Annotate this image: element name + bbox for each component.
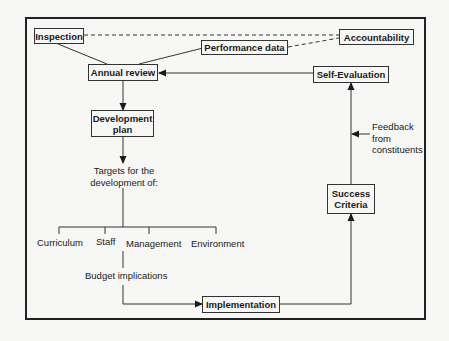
node-accountability: Accountability xyxy=(339,29,414,45)
development-plan-line2: plan xyxy=(113,124,133,135)
school-improvement-cycle-diagram: Inspection Performance data Accountabili… xyxy=(0,0,449,341)
node-annual-review: Annual review xyxy=(88,64,158,81)
targets-label: Targets for the development of: xyxy=(88,165,160,188)
budget-implications-label: Budget implications xyxy=(85,270,167,282)
node-success-criteria: Success Criteria xyxy=(327,184,375,214)
target-curriculum: Curriculum xyxy=(37,237,83,249)
success-criteria-line2: Criteria xyxy=(334,199,367,210)
line-inspection-annual-review xyxy=(58,44,107,64)
node-self-evaluation: Self-Evaluation xyxy=(313,66,389,83)
target-environment: Environment xyxy=(191,238,244,250)
line-performance-annual-review xyxy=(139,48,203,64)
node-performance-data: Performance data xyxy=(201,40,288,55)
target-staff: Staff xyxy=(96,236,115,248)
node-inspection: Inspection xyxy=(34,28,84,44)
dashed-line-performance-accountability xyxy=(288,38,339,47)
node-development-plan: Development plan xyxy=(91,110,154,137)
success-criteria-line1: Success xyxy=(332,188,371,199)
development-plan-line1: Development xyxy=(93,113,153,124)
feedback-label: Feedback from constituents xyxy=(372,121,423,156)
node-implementation: Implementation xyxy=(202,296,280,313)
target-management: Management xyxy=(126,238,181,250)
